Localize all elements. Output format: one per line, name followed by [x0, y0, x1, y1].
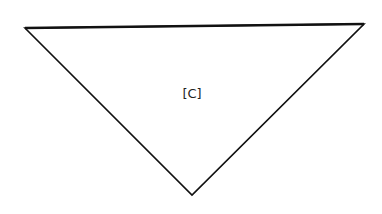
triangle-shape [25, 24, 364, 195]
triangle-diagram: [C] [0, 0, 382, 214]
triangle-label: [C] [182, 86, 201, 101]
